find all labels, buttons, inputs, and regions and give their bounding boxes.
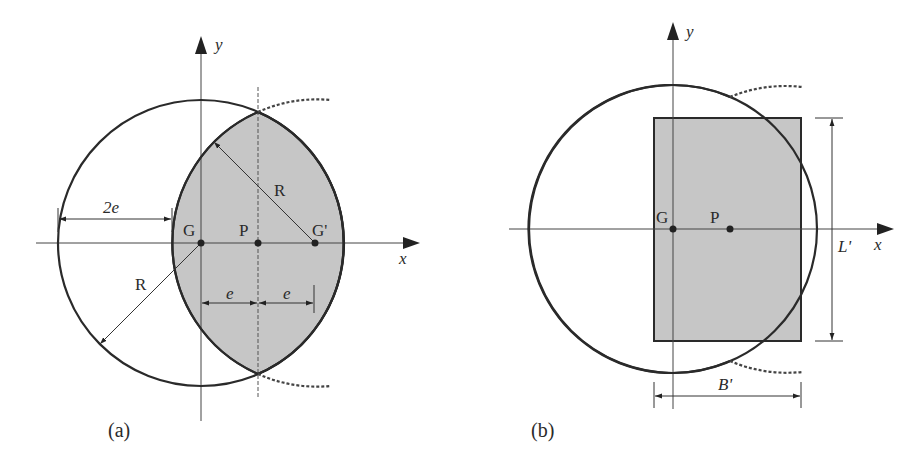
point-g-prime-dot bbox=[312, 240, 319, 247]
circle-g-prime-dashed-bottom bbox=[258, 374, 330, 387]
dim-b-label: B' bbox=[718, 375, 732, 394]
circle-g-prime-dashed-top bbox=[730, 86, 802, 97]
point-g-dot bbox=[198, 240, 205, 247]
point-g-label: G bbox=[656, 208, 668, 227]
radius-lower-label: R bbox=[135, 275, 147, 294]
point-g-label: G bbox=[183, 221, 195, 240]
x-axis-arrow-icon bbox=[877, 223, 894, 235]
figure: y x G P G' R R 2e e e (a) bbox=[0, 0, 924, 461]
dim-l-label: L' bbox=[837, 237, 851, 256]
panel-b-caption: (b) bbox=[531, 419, 554, 442]
dim-2e-label: 2e bbox=[103, 198, 120, 217]
point-p-dot bbox=[255, 240, 262, 247]
y-axis-label: y bbox=[213, 35, 223, 54]
point-p-label: P bbox=[239, 221, 248, 240]
point-p-label: P bbox=[710, 208, 719, 227]
dim-e-right-label: e bbox=[283, 284, 291, 303]
panel-a: y x G P G' R R 2e e e (a) bbox=[36, 35, 458, 442]
dim-e-left-label: e bbox=[226, 284, 234, 303]
radius-upper-label: R bbox=[274, 181, 286, 200]
x-axis-label: x bbox=[398, 249, 407, 268]
panel-a-caption: (a) bbox=[108, 419, 130, 442]
y-axis-arrow-icon bbox=[195, 36, 207, 54]
point-g-prime-label: G' bbox=[312, 221, 327, 240]
point-g-dot bbox=[670, 226, 677, 233]
x-axis-label: x bbox=[873, 235, 882, 254]
point-p-dot bbox=[727, 226, 734, 233]
x-axis-arrow-icon bbox=[403, 237, 420, 249]
y-axis-label: y bbox=[684, 22, 694, 41]
y-axis-arrow-icon bbox=[667, 22, 679, 40]
circle-g-prime-dashed-top bbox=[258, 99, 330, 112]
circle-g-prime-dashed-bottom bbox=[730, 361, 802, 373]
panel-b: y x G P L' B' (b) bbox=[509, 22, 894, 442]
